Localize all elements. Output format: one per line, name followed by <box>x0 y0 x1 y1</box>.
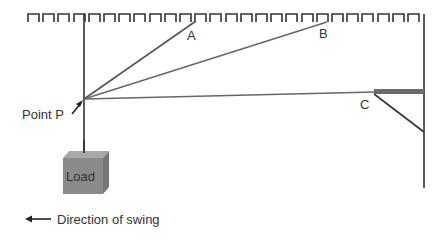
bracket-brace <box>374 94 424 132</box>
direction-of-swing-label: Direction of swing <box>57 212 160 227</box>
point-p-arrow-icon <box>72 100 83 114</box>
load-label: Load <box>66 169 95 184</box>
ceiling-crenellations <box>28 14 419 22</box>
bracket-bar <box>374 89 424 94</box>
label-c: C <box>360 97 369 112</box>
rope-to-a <box>84 21 196 99</box>
label-a: A <box>187 28 196 43</box>
rope-to-c <box>84 92 374 99</box>
label-point-p: Point P <box>22 107 64 122</box>
left-arrow-icon <box>25 216 51 223</box>
label-b: B <box>319 26 328 41</box>
swing-diagram: A B C Point P Load Direction of swing <box>0 0 445 240</box>
rope-to-b <box>84 22 327 99</box>
